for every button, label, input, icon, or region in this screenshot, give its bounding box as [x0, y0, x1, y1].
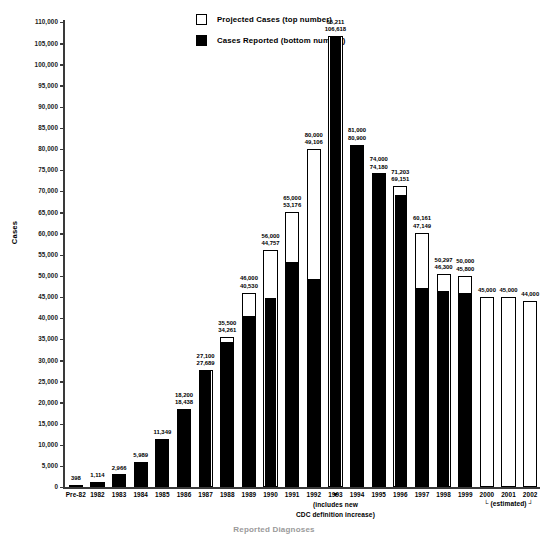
bar-group	[242, 0, 256, 535]
y-axis-tick-label: 80,000	[0, 145, 58, 152]
bar-reported	[373, 173, 385, 485]
y-axis-tick-label: 40,000	[0, 314, 58, 321]
y-axis-tick-mark	[60, 487, 64, 488]
bar-value-line: 1,114	[90, 472, 104, 478]
bar-group	[199, 0, 213, 535]
bar-value-line: 50,000	[456, 258, 474, 264]
bar-group	[372, 0, 386, 535]
bar-value-line: 71,203	[391, 169, 409, 175]
bar-group	[90, 0, 104, 535]
bar-reported	[395, 195, 407, 486]
bar-value-line: 56,000	[262, 233, 280, 239]
bar-reported	[459, 293, 471, 485]
bar-value-line: 27,100	[197, 353, 215, 359]
bar-reported	[265, 298, 277, 486]
y-axis-tick-label: 25,000	[0, 378, 58, 385]
y-axis-tick-label: 10,000	[0, 441, 58, 448]
bar-value-line: 60,161	[413, 215, 431, 221]
bar-group	[263, 0, 277, 535]
bar-reported	[90, 482, 104, 487]
bar-group	[328, 0, 342, 535]
bar-group	[285, 0, 299, 535]
y-axis-tick-label: 45,000	[0, 293, 58, 300]
bar-value-line: 69,151	[391, 176, 409, 182]
bar-value-line: 80,000	[305, 132, 323, 138]
y-axis-tick-label: 35,000	[0, 335, 58, 342]
bar-projected	[480, 297, 494, 487]
bar-reported	[286, 262, 298, 485]
y-axis-tick-label: 100,000	[0, 61, 58, 68]
y-axis-tick-label: 50,000	[0, 272, 58, 279]
aids-cases-bar-chart: Cases 110,000105,000100,00095,00090,0008…	[0, 0, 548, 535]
bar-group	[350, 0, 364, 535]
bar-reported	[438, 291, 450, 485]
y-axis-tick-label: 30,000	[0, 357, 58, 364]
bar-value-line: 65,211	[327, 19, 345, 25]
bar-value-line: 2,966	[112, 465, 127, 471]
y-axis-tick-label: 60,000	[0, 230, 58, 237]
bar-value-line: 35,500	[218, 320, 236, 326]
bar-reported	[416, 288, 428, 486]
bar-value-line: 27,689	[197, 360, 215, 366]
bar-value-line: 53,176	[283, 202, 301, 208]
bar-projected	[501, 297, 515, 487]
bar-reported	[134, 462, 148, 487]
y-axis-tick-label: 70,000	[0, 187, 58, 194]
bar-value-line: 106,618	[325, 26, 346, 32]
bar-value-line: 18,200	[175, 392, 193, 398]
bar-reported	[178, 409, 190, 486]
bar-value-line: 34,261	[218, 327, 236, 333]
y-axis-tick-label: 75,000	[0, 166, 58, 173]
bar-value-line: 5,989	[133, 452, 148, 458]
bar-value-line: 44,757	[262, 240, 280, 246]
bar-reported	[243, 316, 255, 486]
bar-value-line: 74,000	[370, 156, 388, 162]
bar-group	[307, 0, 321, 535]
y-axis-tick-label: 105,000	[0, 40, 58, 47]
y-axis-tick-label: 5,000	[0, 462, 58, 469]
bar-group	[501, 0, 515, 535]
bar-reported	[308, 279, 320, 485]
bar-value-line: 47,149	[413, 223, 431, 229]
bar-group	[69, 0, 83, 535]
bar-value-line: 81,000	[348, 127, 366, 133]
bar-value-line: 11,349	[154, 429, 172, 435]
bar-group	[177, 0, 191, 535]
bar-value-label: 44,000	[508, 291, 548, 298]
y-axis-tick-label: 15,000	[0, 420, 58, 427]
bar-reported	[112, 474, 126, 487]
bar-group	[393, 0, 407, 535]
bar-value-line: 46,000	[240, 275, 258, 281]
bar-value-line: 80,900	[348, 135, 366, 141]
bar-reported	[330, 36, 342, 485]
legend-label-reported: Cases Reported (bottom number)	[217, 36, 345, 45]
bar-value-line: 18,438	[175, 399, 193, 405]
y-axis-tick-label: 20,000	[0, 399, 58, 406]
bar-reported	[69, 485, 83, 487]
bar-reported	[221, 342, 233, 486]
y-axis-tick-label: 110,000	[0, 18, 58, 25]
bar-group	[220, 0, 234, 535]
y-axis-tick-label: 95,000	[0, 82, 58, 89]
bar-reported	[200, 370, 212, 486]
y-axis-tick-label: 65,000	[0, 209, 58, 216]
bar-group	[480, 0, 494, 535]
y-axis-tick-label: 90,000	[0, 103, 58, 110]
y-axis-tick-label: 85,000	[0, 124, 58, 131]
y-axis-tick-label: 55,000	[0, 251, 58, 258]
y-axis-tick-label: 0	[0, 483, 58, 490]
bar-value-line: 45,800	[456, 266, 474, 272]
bar-value-line: 49,106	[305, 139, 323, 145]
bar-group	[155, 0, 169, 535]
bar-projected	[523, 301, 537, 487]
bar-value-line: 40,530	[240, 283, 258, 289]
bar-reported	[351, 145, 363, 486]
bar-reported	[155, 439, 169, 487]
bar-value-line: 65,000	[283, 195, 301, 201]
bar-group	[523, 0, 537, 535]
bar-value-line: 44,000	[521, 291, 539, 297]
